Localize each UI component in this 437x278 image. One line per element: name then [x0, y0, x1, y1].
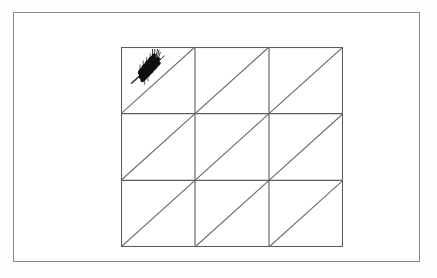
cell-diagonal-r1c3	[269, 47, 343, 114]
cell-diagonal-r2c1	[121, 114, 195, 181]
cell-diagonal-r1c1	[121, 47, 195, 114]
page-root	[0, 0, 437, 278]
cell-diagonal-r3c2	[195, 180, 269, 247]
cell-diagonal-r2c3	[269, 114, 343, 181]
diagonally-divided-grid	[121, 47, 343, 247]
cell-diagonal-r3c3	[269, 180, 343, 247]
cell-diagonal-r3c1	[121, 180, 195, 247]
outer-border	[13, 12, 420, 262]
cell-diagonal-r2c2	[195, 114, 269, 181]
cell-diagonal-r1c2	[195, 47, 269, 114]
